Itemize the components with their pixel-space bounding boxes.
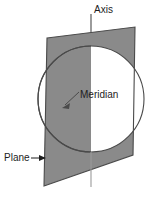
diagram-canvas: Axis Meridian Plane (0, 0, 163, 197)
label-axis: Axis (94, 4, 113, 15)
label-meridian: Meridian (80, 89, 118, 100)
label-plane: Plane (4, 152, 30, 163)
